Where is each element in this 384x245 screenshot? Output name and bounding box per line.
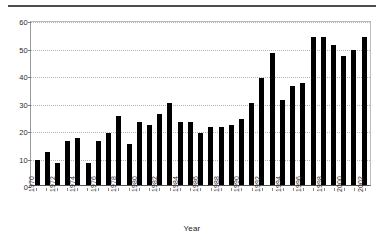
- bar: [157, 114, 162, 186]
- x-axis-slot: 1986: [195, 188, 205, 224]
- x-axis-tick-mark: [344, 188, 345, 191]
- x-axis-slot: 1978: [113, 188, 123, 224]
- x-axis-tick-mark: [334, 188, 335, 191]
- x-axis-tick-mark: [77, 188, 78, 191]
- bar: [270, 53, 275, 185]
- bar-slot: [257, 22, 267, 185]
- x-axis-tick-mark: [139, 188, 140, 191]
- x-axis-slot: [144, 188, 154, 224]
- bar-slot: [308, 22, 318, 185]
- x-axis-tick-label: 1980: [131, 176, 138, 192]
- bar: [290, 86, 295, 185]
- bar-slot: [247, 22, 257, 185]
- bar: [351, 50, 356, 185]
- bar-slot: [42, 22, 52, 185]
- x-axis-tick-mark: [87, 188, 88, 191]
- y-axis-tick-label: 30: [19, 100, 28, 109]
- bar: [249, 103, 254, 186]
- x-axis-tick-label: 1994: [275, 176, 282, 192]
- x-axis-tick-label: 1992: [254, 176, 261, 192]
- bar-slot: [73, 22, 83, 185]
- bar-slot: [196, 22, 206, 185]
- y-axis-tick-label: 60: [19, 18, 28, 27]
- x-axis-tick-mark: [252, 188, 253, 191]
- x-axis-slot: 1984: [175, 188, 185, 224]
- bar-slot: [236, 22, 246, 185]
- bar-slot: [339, 22, 349, 185]
- y-axis-tick-label: 10: [19, 155, 28, 164]
- x-axis-tick-mark: [365, 188, 366, 191]
- x-axis-slot: 1996: [298, 188, 308, 224]
- x-axis-tick-mark: [98, 188, 99, 191]
- bar: [362, 37, 367, 186]
- x-axis-tick-mark: [46, 188, 47, 191]
- bar-slot: [114, 22, 124, 185]
- x-axis-tick-mark: [149, 188, 150, 191]
- x-axis-tick-mark: [57, 188, 58, 191]
- x-axis-tick-label: 1986: [192, 176, 199, 192]
- x-axis-slot: [123, 188, 133, 224]
- plot-area: 0102030405060: [30, 21, 371, 186]
- x-axis-slot: 1992: [257, 188, 267, 224]
- bar-slot: [124, 22, 134, 185]
- bar-slot: [155, 22, 165, 185]
- x-axis-slot: 1982: [154, 188, 164, 224]
- bar-slot: [83, 22, 93, 185]
- x-axis-tick-mark: [241, 188, 242, 191]
- x-axis-tick-mark: [36, 188, 37, 191]
- y-axis-tick-label: 50: [19, 45, 28, 54]
- x-axis-slot: 1990: [236, 188, 246, 224]
- bar-slot: [349, 22, 359, 185]
- x-axis-slot: [329, 188, 339, 224]
- bar: [300, 83, 305, 185]
- x-axis-tick-label: 1988: [213, 176, 220, 192]
- x-axis-tick-label: 1998: [316, 176, 323, 192]
- x-axis-tick-label: 1970: [28, 176, 35, 192]
- x-axis-slot: 1970: [31, 188, 41, 224]
- bar-slot: [175, 22, 185, 185]
- bar-slot: [134, 22, 144, 185]
- x-axis-tick-label: 1996: [295, 176, 302, 192]
- x-axis-tick-label: 1972: [49, 176, 56, 192]
- x-axis-tick-label: 2002: [357, 176, 364, 192]
- x-axis-tick-mark: [324, 188, 325, 191]
- x-axis-tick-mark: [313, 188, 314, 191]
- x-axis-tick-mark: [190, 188, 191, 191]
- bar-slot: [359, 22, 369, 185]
- bar: [321, 37, 326, 186]
- x-axis-slot: 1974: [72, 188, 82, 224]
- bar: [311, 37, 316, 186]
- bar-slot: [277, 22, 287, 185]
- x-axis-tick-mark: [293, 188, 294, 191]
- bar: [341, 56, 346, 185]
- x-axis-slot: [288, 188, 298, 224]
- x-axis-slot: 1994: [277, 188, 287, 224]
- x-axis-slot: 2000: [339, 188, 349, 224]
- x-axis-slot: 1980: [134, 188, 144, 224]
- bar-slot: [298, 22, 308, 185]
- bar-slot: [226, 22, 236, 185]
- y-axis-tick-label: 40: [19, 73, 28, 82]
- bar-slot: [93, 22, 103, 185]
- x-axis-slot: 1998: [318, 188, 328, 224]
- bar-slot: [32, 22, 42, 185]
- x-axis-tick-mark: [170, 188, 171, 191]
- x-axis-tick-label: 1984: [172, 176, 179, 192]
- x-axis-tick-label: 2000: [336, 176, 343, 192]
- y-axis-tick-label: 20: [19, 128, 28, 137]
- x-axis-slot: [185, 188, 195, 224]
- bar-series: [31, 22, 370, 185]
- bar-slot: [206, 22, 216, 185]
- bar-slot: [165, 22, 175, 185]
- x-axis-tick-mark: [159, 188, 160, 191]
- x-axis-tick-mark: [272, 188, 273, 191]
- bar-slot: [287, 22, 297, 185]
- x-axis-tick-label: 1982: [151, 176, 158, 192]
- bar-slot: [267, 22, 277, 185]
- x-axis-tick-labels: 1970197219741976197819801982198419861988…: [30, 188, 371, 224]
- x-axis-tick-mark: [67, 188, 68, 191]
- x-axis-tick-mark: [129, 188, 130, 191]
- bar: [75, 138, 80, 185]
- x-axis-tick-mark: [200, 188, 201, 191]
- x-axis-tick-mark: [118, 188, 119, 191]
